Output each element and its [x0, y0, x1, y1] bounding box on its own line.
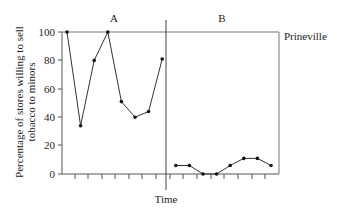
- x-axis-label: Time: [155, 193, 178, 205]
- y-tick-80: 80: [44, 54, 56, 66]
- y-ticks: [58, 32, 62, 174]
- data-point: [133, 115, 137, 119]
- data-point: [256, 157, 260, 161]
- y-tick-0: 0: [50, 168, 56, 180]
- data-point: [188, 164, 192, 168]
- chart: 100 80 60 40 20 0 Percentage of stores w…: [0, 0, 338, 215]
- data-point: [79, 124, 83, 128]
- phase-a-label: A: [110, 12, 118, 24]
- data-series: [65, 30, 273, 176]
- data-point: [242, 157, 246, 161]
- phase-b-label: B: [218, 12, 225, 24]
- data-point: [174, 164, 178, 168]
- x-ticks: [75, 174, 265, 179]
- data-point: [92, 59, 96, 63]
- data-point: [201, 172, 205, 176]
- series-label-prineville: Prineville: [284, 30, 327, 42]
- y-tick-40: 40: [44, 111, 56, 123]
- y-tick-100: 100: [39, 26, 56, 38]
- data-point: [65, 30, 69, 34]
- y-tick-20: 20: [44, 139, 56, 151]
- data-point: [160, 57, 164, 61]
- data-point: [228, 164, 232, 168]
- y-axis-label-line2: tobacco to minors: [25, 63, 37, 142]
- y-tick-labels: 100 80 60 40 20 0: [39, 26, 56, 180]
- data-point: [120, 100, 124, 104]
- data-point: [215, 172, 219, 176]
- y-axis-label-line1: Percentage of stores willing to sell: [13, 26, 25, 178]
- data-point: [147, 110, 151, 114]
- y-tick-60: 60: [44, 83, 56, 95]
- data-point: [269, 164, 273, 168]
- data-point: [106, 30, 110, 34]
